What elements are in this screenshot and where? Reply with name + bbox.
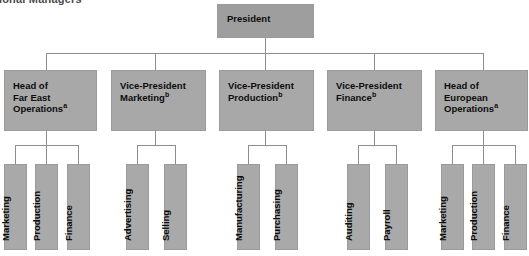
connector-g4-stem xyxy=(374,131,375,145)
connector-g2-drop-2 xyxy=(175,145,176,164)
leaf-production-europe: Production xyxy=(472,164,495,250)
connector-g3-bus xyxy=(248,145,286,146)
connector-g5-drop-3 xyxy=(515,145,516,164)
node-european-operations: Head of European Operationsa xyxy=(435,70,528,131)
chart-caption: Functional Managers xyxy=(0,0,130,8)
connector-drop-4 xyxy=(374,53,375,70)
leaf-production-fareast-label: Production xyxy=(32,191,42,241)
connector-president-stem xyxy=(265,38,266,53)
leaf-purchasing: Purchasing xyxy=(275,164,298,250)
node-vp-marketing: Vice-President Marketingb xyxy=(111,70,206,131)
node-president-label: President xyxy=(227,13,270,25)
node-far-east-operations: Head of Far East Operationsa xyxy=(4,70,97,131)
leaf-marketing-europe: Marketing xyxy=(441,164,464,250)
leaf-manufacturing-label: Manufacturing xyxy=(234,176,244,241)
connector-g5-drop-1 xyxy=(452,145,453,164)
connector-g4-bus xyxy=(358,145,396,146)
connector-drop-3 xyxy=(265,53,266,70)
leaf-advertising: Advertising xyxy=(126,164,149,250)
node-vp-finance-label: Vice-President Financeb xyxy=(336,80,402,103)
leaf-marketing-fareast-label: Marketing xyxy=(1,196,11,241)
leaf-selling-label: Selling xyxy=(161,210,171,241)
connector-g5-stem xyxy=(483,131,484,145)
connector-g3-drop-2 xyxy=(286,145,287,164)
connector-g1-stem xyxy=(46,131,47,145)
leaf-production-fareast: Production xyxy=(35,164,58,250)
leaf-selling: Selling xyxy=(164,164,187,250)
connector-g5-drop-2 xyxy=(483,145,484,164)
leaf-payroll: Payroll xyxy=(385,164,408,250)
leaf-finance-europe: Finance xyxy=(504,164,527,250)
node-far-east-operations-label: Head of Far East Operationsa xyxy=(13,80,67,115)
connector-g3-stem xyxy=(265,131,266,145)
connector-g1-drop-2 xyxy=(46,145,47,164)
connector-g2-drop-1 xyxy=(137,145,138,164)
connector-g2-stem xyxy=(155,131,156,145)
chart-caption-text: Functional Managers xyxy=(0,0,82,5)
leaf-finance-fareast: Finance xyxy=(67,164,90,250)
leaf-auditing-label: Auditing xyxy=(344,202,354,241)
connector-g1-drop-3 xyxy=(78,145,79,164)
node-vp-production-label: Vice-President Productionb xyxy=(228,80,294,103)
connector-drop-2 xyxy=(155,53,156,70)
node-vp-production: Vice-President Productionb xyxy=(219,70,314,131)
connector-g4-drop-2 xyxy=(396,145,397,164)
leaf-marketing-fareast: Marketing xyxy=(4,164,27,250)
leaf-manufacturing: Manufacturing xyxy=(237,164,260,250)
connector-g1-drop-1 xyxy=(15,145,16,164)
leaf-production-europe-label: Production xyxy=(469,191,479,241)
leaf-payroll-label: Payroll xyxy=(382,209,392,241)
node-president: President xyxy=(217,4,314,38)
connector-drop-1 xyxy=(46,53,47,70)
connector-g2-bus xyxy=(137,145,175,146)
leaf-finance-europe-label: Finance xyxy=(501,205,511,241)
leaf-auditing: Auditing xyxy=(347,164,370,250)
node-vp-marketing-label: Vice-President Marketingb xyxy=(120,80,186,103)
org-chart: Functional Managers President Head of Fa… xyxy=(0,0,529,256)
node-european-operations-label: Head of European Operationsa xyxy=(444,80,498,115)
leaf-purchasing-label: Purchasing xyxy=(272,189,282,241)
leaf-advertising-label: Advertising xyxy=(123,189,133,241)
leaf-finance-fareast-label: Finance xyxy=(64,205,74,241)
connector-drop-5 xyxy=(483,53,484,70)
node-vp-finance: Vice-President Financeb xyxy=(327,70,422,131)
leaf-marketing-europe-label: Marketing xyxy=(438,196,448,241)
connector-g3-drop-1 xyxy=(248,145,249,164)
connector-g4-drop-1 xyxy=(358,145,359,164)
